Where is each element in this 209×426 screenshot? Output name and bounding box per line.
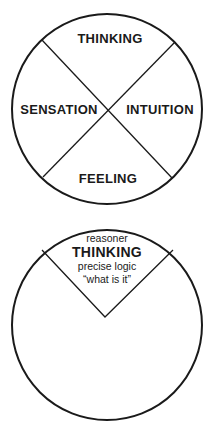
quadrant-label-sensation: SENSATION [20,102,98,117]
quadrant-label-intuition: INTUITION [126,102,194,117]
wedge-label-precise-logic: precise logic [78,260,136,272]
wedge-label-reasoner: reasoner [86,232,127,244]
wedge-label-what-is-it: “what is it” [83,273,131,285]
quadrant-label-feeling: FEELING [79,171,137,186]
wedge-label-thinking: THINKING [72,244,142,260]
diagram-canvas [0,0,209,426]
quadrant-label-thinking: THINKING [77,31,142,46]
